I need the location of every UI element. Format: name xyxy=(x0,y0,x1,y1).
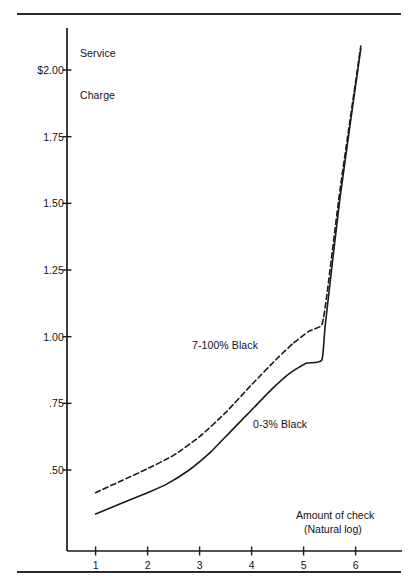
x-tick-label: 5 xyxy=(292,560,316,571)
y-tick-label: 1.50 xyxy=(12,198,64,209)
series-layer xyxy=(96,46,361,514)
series-label-0-3-percent-black: 0-3% Black xyxy=(253,419,307,430)
chart-figure: Service Charge Amount of check (Natural … xyxy=(0,0,414,582)
y-tick-label: 1.25 xyxy=(12,265,64,276)
page-rule-bottom xyxy=(17,571,401,573)
x-tick-label: 6 xyxy=(344,560,368,571)
series-line-7-100-percent-black xyxy=(96,46,361,493)
y-axis-title-line1: Service xyxy=(80,46,116,60)
x-tick-label: 4 xyxy=(240,560,264,571)
x-tick-label: 2 xyxy=(136,560,160,571)
y-tick-label: .75 xyxy=(12,398,64,409)
page-rule-top xyxy=(17,13,401,15)
x-axis-caption-line2: (Natural log) xyxy=(296,522,374,536)
series-line-0-3-percent-black xyxy=(96,49,361,514)
y-tick-label: $2.00 xyxy=(12,65,64,76)
y-axis-title-line2: Charge xyxy=(80,88,116,102)
series-label-7-100-percent-black: 7-100% Black xyxy=(192,340,258,351)
x-axis-caption: Amount of check (Natural log) xyxy=(296,508,374,536)
x-axis-caption-line1: Amount of check xyxy=(296,508,374,522)
x-tick-label: 1 xyxy=(84,560,108,571)
y-axis-title: Service Charge xyxy=(80,18,116,130)
y-tick-label: 1.00 xyxy=(12,332,64,343)
x-tick-label: 3 xyxy=(188,560,212,571)
y-tick-label: 1.75 xyxy=(12,132,64,143)
y-tick-label: .50 xyxy=(12,465,64,476)
plot-canvas xyxy=(0,0,414,582)
